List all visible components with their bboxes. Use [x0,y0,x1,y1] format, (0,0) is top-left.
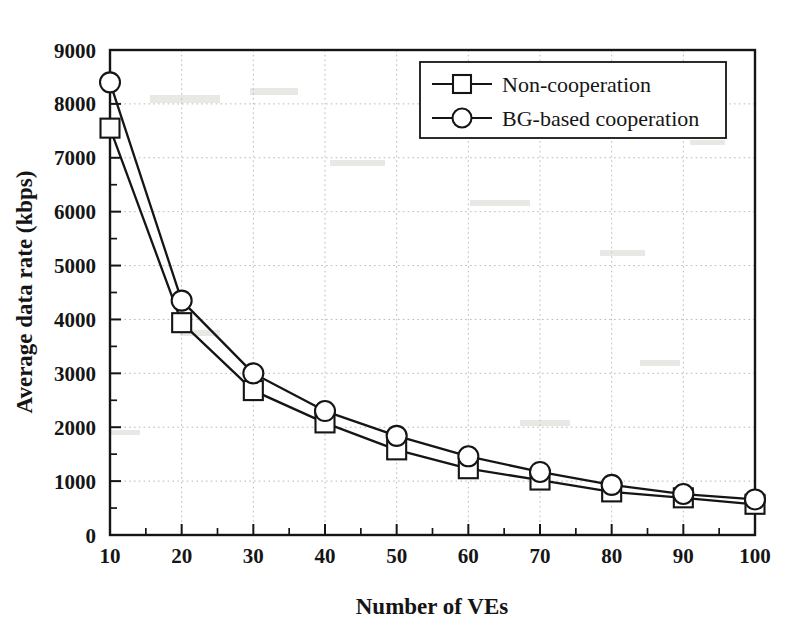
y-tick-label: 9000 [54,39,96,63]
x-tick-label: 20 [171,544,192,568]
x-tick-label: 70 [530,544,551,568]
data-point-marker [745,489,765,509]
line-chart: 102030405060708090100 010002000300040005… [0,0,800,635]
y-tick-label: 6000 [54,200,96,224]
y-tick-label: 8000 [54,92,96,116]
x-tick-label: 100 [739,544,771,568]
legend-marker-circle [453,109,472,128]
y-tick-label: 0 [86,524,97,548]
data-point-marker [243,363,263,383]
x-axis-title: Number of VEs [356,594,509,619]
chart-legend: Non-cooperation BG-based cooperation [420,62,726,138]
x-tick-label: 10 [100,544,121,568]
y-axis-title: Average data rate (kbps) [12,171,37,414]
chart-figure: 102030405060708090100 010002000300040005… [0,0,800,635]
y-tick-label: 3000 [54,362,96,386]
x-tick-label: 50 [386,544,407,568]
data-point-marker [315,401,335,421]
data-point-marker [458,446,478,466]
y-tick-label: 2000 [54,416,96,440]
legend-marker-square [453,75,471,93]
legend-label-0: Non-cooperation [502,72,651,97]
x-tick-label: 80 [601,544,622,568]
data-point-marker [172,313,191,332]
x-tick-label: 40 [315,544,336,568]
x-tick-label: 60 [458,544,479,568]
data-point-marker [100,72,120,92]
data-point-marker [172,291,192,311]
data-point-marker [673,484,693,504]
y-tick-label: 4000 [54,308,96,332]
x-tick-label: 90 [673,544,694,568]
legend-entry-non-cooperation: Non-cooperation [432,72,651,97]
data-point-marker [530,462,550,482]
x-tick-label: 30 [243,544,264,568]
data-point-marker [602,475,622,495]
data-point-marker [387,426,407,446]
y-tick-label: 7000 [54,146,96,170]
y-tick-label: 1000 [54,470,96,494]
y-tick-label: 5000 [54,254,96,278]
data-point-marker [101,119,120,138]
legend-label-1: BG-based cooperation [502,106,699,131]
